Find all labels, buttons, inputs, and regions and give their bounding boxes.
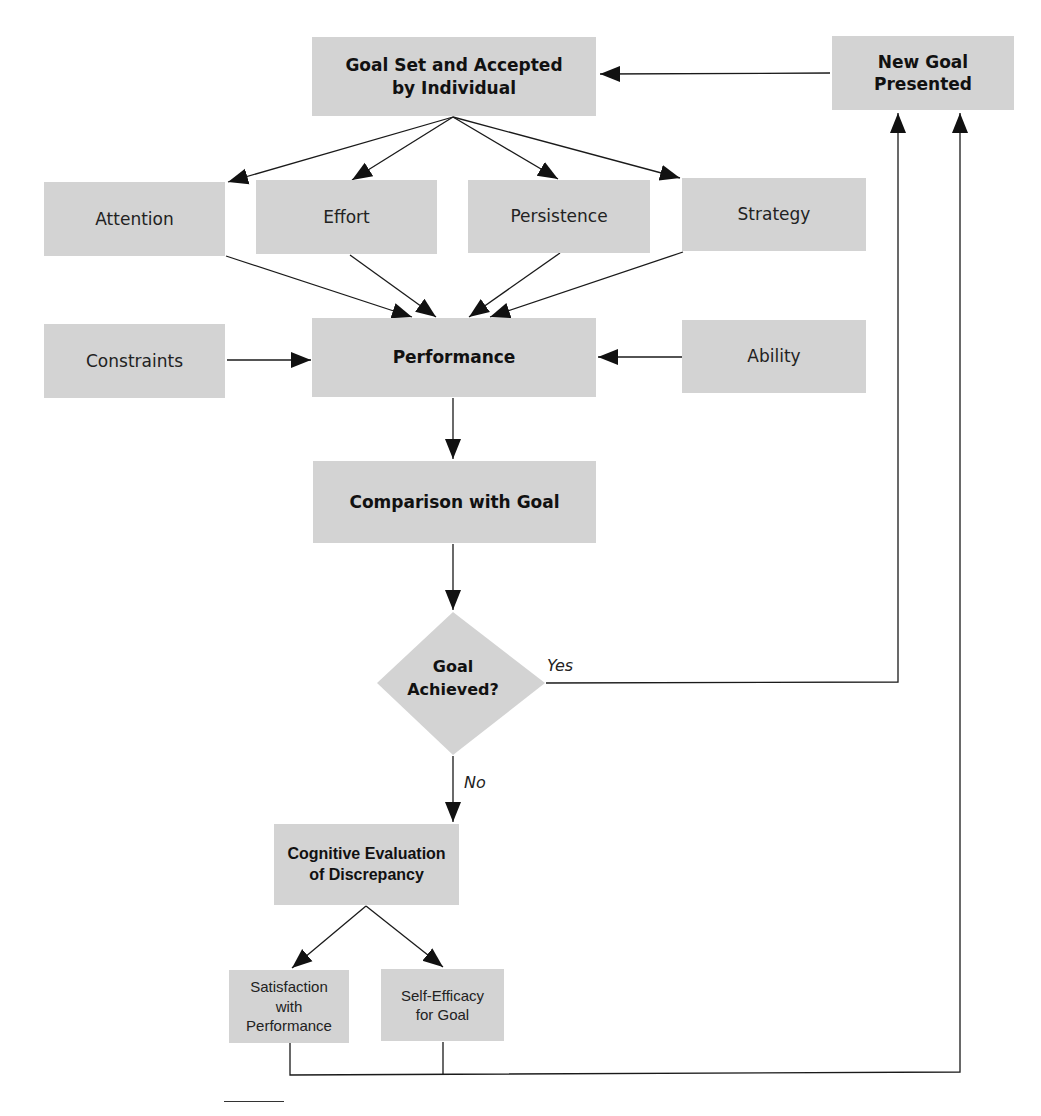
node-self-efficacy-line2: for Goal	[416, 1005, 469, 1025]
node-new-goal-line2: Presented	[874, 73, 972, 95]
arrow-strategy-to-performance	[490, 252, 683, 317]
arrow-effort-to-performance	[350, 255, 436, 317]
footnote-rule	[224, 1101, 284, 1102]
node-ability: Ability	[682, 320, 866, 393]
arrow-goalset-to-effort	[352, 117, 453, 180]
node-attention-label: Attention	[95, 208, 173, 230]
node-satisfaction: Satisfaction with Performance	[229, 970, 349, 1043]
arrow-persistence-to-performance	[469, 253, 560, 317]
node-constraints-label: Constraints	[86, 350, 183, 372]
arrow-feedback-to-newgoal	[290, 113, 960, 1075]
node-cognitive-line2: of Discrepancy	[309, 865, 424, 886]
node-goal-achieved-line2: Achieved?	[383, 678, 523, 701]
node-goal-achieved-line1: Goal	[383, 655, 523, 678]
edge-label-no: No	[464, 773, 486, 792]
node-attention: Attention	[44, 182, 225, 256]
node-new-goal-line1: New Goal	[878, 51, 968, 73]
arrow-newgoal-to-goalset	[600, 73, 830, 74]
node-satisfaction-line2: with Performance	[235, 997, 343, 1036]
node-effort: Effort	[256, 180, 437, 254]
node-goal-set-accepted: Goal Set and Accepted by Individual	[312, 37, 596, 116]
node-ability-label: Ability	[747, 345, 800, 367]
node-strategy-label: Strategy	[738, 203, 811, 225]
node-strategy: Strategy	[682, 178, 866, 251]
node-goal-set-line1: Goal Set and Accepted	[345, 54, 562, 76]
node-new-goal-presented: New Goal Presented	[832, 36, 1014, 110]
node-goal-set-line2: by Individual	[392, 77, 516, 99]
node-effort-label: Effort	[323, 206, 370, 228]
arrow-goalset-to-persistence	[453, 117, 558, 179]
node-cognitive-evaluation: Cognitive Evaluation of Discrepancy	[274, 824, 459, 905]
node-persistence: Persistence	[468, 180, 650, 253]
node-persistence-label: Persistence	[510, 205, 607, 227]
arrow-cogeval-to-satisfaction	[292, 906, 366, 968]
node-comparison-label: Comparison with Goal	[349, 491, 559, 513]
connector-lines	[0, 0, 1041, 1116]
arrow-goalset-to-strategy	[453, 117, 680, 178]
arrow-cogeval-to-selfefficacy	[366, 906, 443, 967]
arrow-attention-to-performance	[226, 256, 412, 317]
node-satisfaction-line1: Satisfaction	[250, 977, 328, 997]
node-cognitive-line1: Cognitive Evaluation	[287, 844, 445, 865]
node-performance: Performance	[312, 318, 596, 397]
arrow-goalset-to-attention	[228, 117, 453, 182]
edge-label-yes: Yes	[547, 656, 573, 675]
node-comparison-with-goal: Comparison with Goal	[313, 461, 596, 543]
node-constraints: Constraints	[44, 324, 225, 398]
node-self-efficacy: Self-Efficacy for Goal	[381, 969, 504, 1041]
node-performance-label: Performance	[393, 346, 516, 368]
node-goal-achieved: Goal Achieved?	[383, 655, 523, 701]
node-self-efficacy-line1: Self-Efficacy	[401, 986, 484, 1006]
